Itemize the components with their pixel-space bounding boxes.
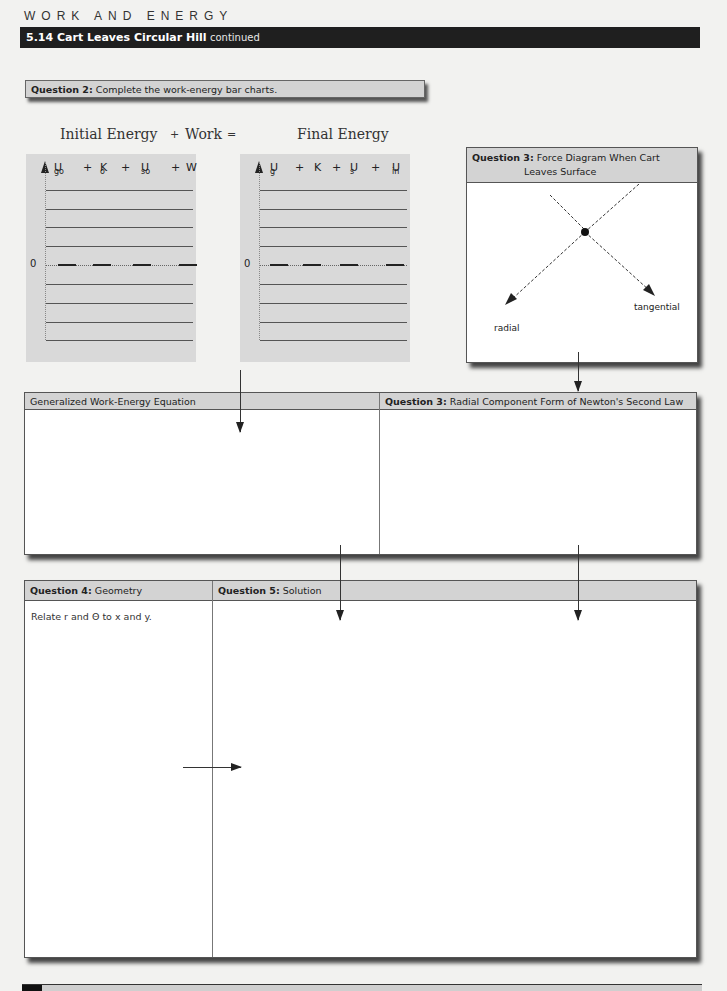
initial-energy-label: Initial Energy — [60, 126, 158, 142]
term-ugo: Ugo — [54, 161, 64, 176]
flow-arrow-down-icon — [578, 545, 579, 620]
equals-sign: = — [227, 128, 236, 141]
flow-arrow-down-icon — [578, 352, 579, 391]
geometry-section[interactable]: Question 4: Geometry Relate r and Θ to x… — [25, 581, 213, 957]
cart-point-icon — [581, 228, 589, 236]
bar-ko[interactable] — [93, 264, 111, 266]
solution-section[interactable]: Question 5: Solution — [213, 581, 696, 957]
force-diagram-canvas[interactable] — [467, 184, 699, 364]
work-label: Work — [185, 126, 222, 142]
tangential-label: tangential — [634, 302, 680, 312]
bar-k[interactable] — [303, 264, 321, 266]
flow-arrow-right-icon — [183, 767, 241, 768]
solution-panel: Question 4: Geometry Relate r and Θ to x… — [24, 580, 697, 958]
bar-ug[interactable] — [270, 264, 288, 266]
flow-arrow-down-icon — [240, 370, 241, 432]
solution-header: Question 5: Solution — [213, 581, 696, 601]
question-2-text: Complete the work-energy bar charts. — [96, 84, 277, 95]
work-energy-equation-section[interactable]: Generalized Work-Energy Equation — [25, 393, 380, 554]
vertical-axis — [259, 162, 260, 340]
continued-label: continued — [210, 32, 260, 43]
term-ug: Ug — [270, 161, 275, 176]
final-energy-label: Final Energy — [297, 126, 389, 142]
problem-title: 5.14 Cart Leaves Circular Hill — [26, 31, 206, 44]
radial-newton-header: Question 3: Radial Component Form of New… — [380, 393, 696, 410]
problem-title-bar: 5.14 Cart Leaves Circular Hill continued — [20, 27, 700, 48]
radial-newton-section[interactable]: Question 3: Radial Component Form of New… — [380, 393, 696, 554]
plus-sign: + — [170, 128, 179, 141]
footer-bar — [22, 984, 702, 991]
bar-uso[interactable] — [133, 264, 151, 266]
force-diagram-header: Question 3: Force Diagram When Cart Leav… — [467, 148, 697, 183]
bar-uin[interactable] — [386, 264, 404, 266]
question-2-box: Question 2: Complete the work-energy bar… — [25, 80, 425, 98]
force-diagram-panel: Question 3: Force Diagram When Cart Leav… — [466, 147, 698, 363]
equations-panel: Generalized Work-Energy Equation Questio… — [24, 392, 697, 555]
bar-w[interactable] — [179, 264, 197, 266]
zero-label: 0 — [30, 258, 36, 269]
question-2-label: Question 2: — [31, 84, 93, 95]
term-us: Us — [350, 161, 354, 176]
vertical-axis — [45, 162, 46, 340]
zero-label: 0 — [244, 258, 250, 269]
section-heading: WORK AND ENERGY — [24, 9, 233, 23]
bar-ugo[interactable] — [58, 264, 76, 266]
bar-us[interactable] — [340, 264, 358, 266]
term-uin: Uin — [392, 161, 399, 176]
geometry-header: Question 4: Geometry — [25, 581, 212, 601]
term-ko: Ko — [100, 161, 105, 176]
flow-arrow-down-icon — [340, 545, 341, 620]
initial-energy-bar-chart[interactable]: Ugo + Ko + Uso + W 0 — [26, 154, 196, 362]
term-uso: Uso — [141, 161, 150, 176]
geometry-note: Relate r and Θ to x and y. — [25, 601, 212, 632]
work-energy-header: Generalized Work-Energy Equation — [25, 393, 379, 410]
radial-arrow-icon — [505, 293, 517, 305]
radial-label: radial — [494, 323, 519, 333]
final-energy-bar-chart[interactable]: Ug + K + Us + Uin 0 — [240, 154, 410, 362]
